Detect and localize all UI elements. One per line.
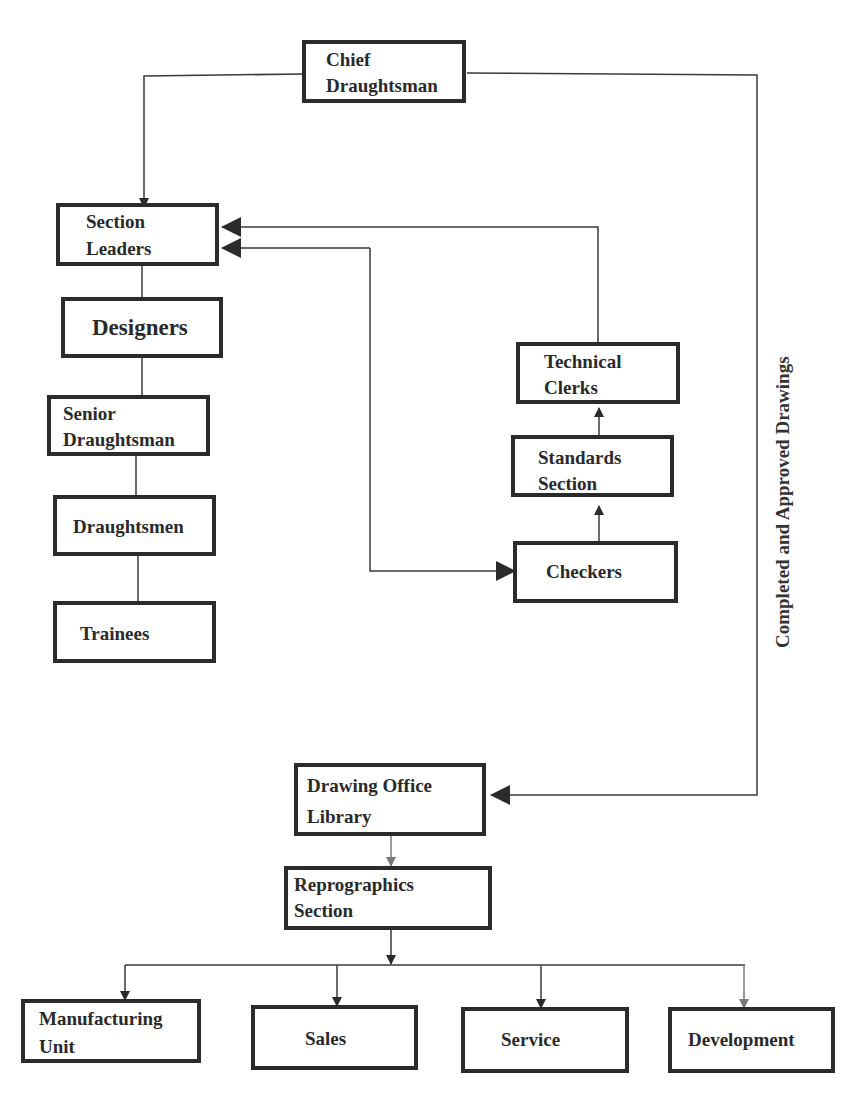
node-label: Designers (92, 314, 188, 342)
node-draughtsmen: Draughtsmen (53, 495, 216, 556)
node-label: Unit (39, 1033, 75, 1061)
drawing-office-org-chart: Chief Draughtsman Section Leaders Design… (0, 0, 858, 1103)
node-service: Service (461, 1007, 629, 1073)
node-label: Senior (63, 400, 116, 428)
node-designers: Designers (61, 297, 223, 358)
node-reprographics-section: Reprographics Section (284, 866, 492, 930)
node-label: Section (294, 897, 353, 925)
node-technical-clerks: Technical Clerks (516, 342, 680, 404)
node-label: Sales (305, 1025, 346, 1053)
node-label: Drawing Office (307, 772, 432, 800)
node-label: Standards (538, 444, 621, 472)
node-drawing-office-library: Drawing Office Library (294, 763, 486, 836)
edge-chief-to-section-leaders (144, 74, 304, 207)
node-sales: Sales (251, 1005, 418, 1070)
node-senior-draughtsman: Senior Draughtsman (47, 395, 210, 456)
edge-label-completed-approved: Completed and Approved Drawings (772, 356, 794, 648)
node-label: Draughtsman (326, 72, 438, 100)
edge-chief-to-library (467, 73, 757, 795)
node-section-leaders: Section Leaders (56, 203, 219, 266)
edge-section-leaders-checkers (370, 248, 515, 571)
node-label: Library (307, 803, 371, 831)
node-label: Checkers (546, 558, 622, 586)
node-label: Section (538, 470, 597, 498)
node-label: Service (501, 1026, 560, 1054)
node-label: Manufacturing (39, 1005, 163, 1033)
node-label: Leaders (86, 235, 151, 263)
node-manufacturing-unit: Manufacturing Unit (21, 999, 201, 1063)
node-label: Chief (326, 46, 370, 74)
node-checkers: Checkers (513, 541, 678, 603)
node-label: Section (86, 208, 145, 236)
node-label: Draughtsmen (73, 513, 184, 541)
node-trainees: Trainees (53, 601, 216, 663)
node-label: Trainees (80, 620, 149, 648)
node-standards-section: Standards Section (511, 435, 674, 497)
node-development: Development (668, 1007, 835, 1073)
node-chief-draughtsman: Chief Draughtsman (302, 40, 466, 103)
node-label: Development (688, 1026, 795, 1054)
node-label: Clerks (544, 374, 598, 402)
node-label: Technical (544, 348, 621, 376)
edge-clerks-to-section-leaders (222, 227, 598, 343)
node-label: Reprographics (294, 871, 414, 899)
node-label: Draughtsman (63, 426, 175, 454)
